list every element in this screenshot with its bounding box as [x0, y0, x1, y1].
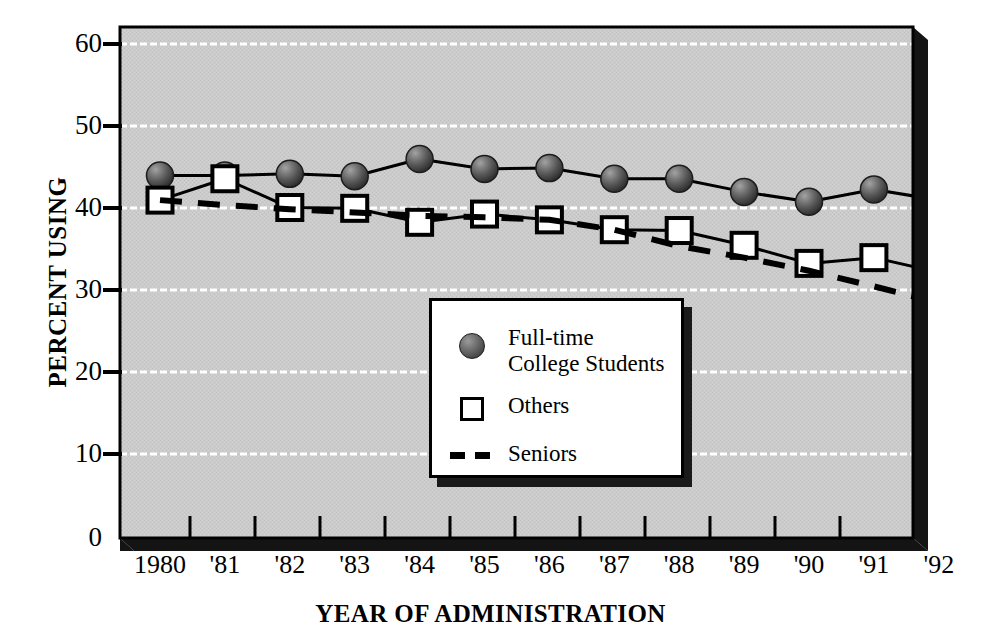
- legend-label: Others: [508, 393, 569, 419]
- data-point-marker: [536, 155, 563, 182]
- data-point-marker: [471, 155, 498, 182]
- data-point-marker: [212, 166, 237, 191]
- legend-marker-open-square: [450, 397, 494, 421]
- chart-figure: 60 50 40 30 20 10 0 PERCENT USING 1980'8…: [0, 0, 981, 640]
- x-axis-title: YEAR OF ADMINISTRATION: [0, 600, 981, 628]
- data-point-marker: [861, 245, 886, 270]
- legend-label: Seniors: [508, 441, 577, 467]
- x-tick-label: '92: [884, 552, 981, 578]
- data-point-marker: [601, 165, 628, 192]
- data-point-marker: [147, 162, 174, 189]
- legend-label: Full-time College Students: [508, 325, 665, 377]
- data-point-marker: [276, 160, 303, 187]
- data-point-marker: [925, 187, 952, 214]
- data-point-marker: [926, 260, 951, 285]
- data-point-marker: [341, 163, 368, 190]
- data-point-marker: [342, 196, 367, 221]
- y-tick-label: 0: [36, 524, 102, 551]
- data-point-marker: [731, 178, 758, 205]
- legend-marker-dashed-line: [450, 452, 494, 459]
- data-point-marker: [796, 188, 823, 215]
- data-point-marker: [472, 202, 497, 227]
- y-tick-label: 10: [36, 440, 102, 467]
- chart-legend: Full-time College Students Others Senior…: [429, 298, 684, 478]
- data-point-marker: [406, 146, 433, 173]
- data-point-marker: [666, 165, 693, 192]
- legend-marker-filled-circle: [450, 333, 494, 359]
- data-point-marker: [860, 176, 887, 203]
- y-axis-title: PERCENT USING: [44, 132, 72, 432]
- y-tick-label: 60: [36, 30, 102, 57]
- data-point-marker: [667, 218, 692, 243]
